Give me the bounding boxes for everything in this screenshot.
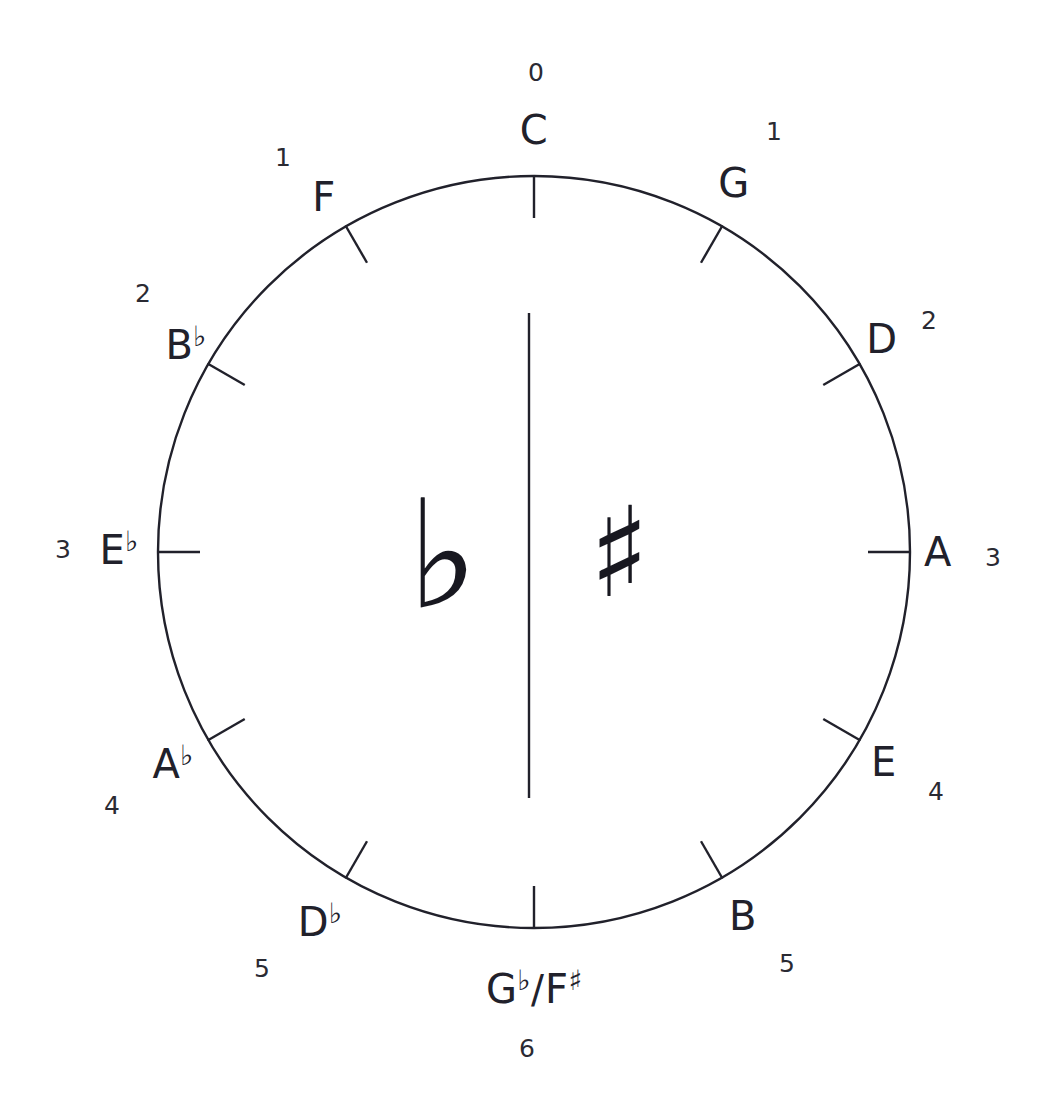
key-label-e: E [871, 742, 897, 782]
tick-mark-f [346, 226, 368, 263]
key-label-bb: B♭ [165, 323, 206, 365]
key-label-d: D [866, 319, 897, 359]
key-label-f: F [312, 177, 336, 217]
accidental-count-gb-f#: 6 [519, 1036, 535, 1061]
key-root-letter: E [100, 527, 126, 573]
accidental-count-eb: 3 [55, 537, 71, 562]
enharmonic-root-letter: F [545, 966, 569, 1012]
tick-mark-ab [208, 719, 245, 741]
key-label-ab: A♭ [152, 742, 193, 784]
key-root-letter: F [312, 174, 336, 220]
circle-outline [158, 176, 910, 928]
key-label-gb-f#: G♭/F♯ [486, 967, 582, 1010]
key-label-eb: E♭ [100, 528, 139, 570]
accidental-count-b: 5 [779, 951, 795, 976]
key-root-letter: D [866, 316, 897, 362]
sharp-accidental-icon: ♯ [568, 964, 582, 997]
diagram-canvas [0, 0, 1055, 1112]
sharp-symbol-icon: ♯ [589, 490, 650, 615]
key-root-letter: D [298, 899, 329, 945]
key-root-letter: B [729, 893, 757, 939]
key-root-letter: E [871, 739, 897, 785]
accidental-count-d: 2 [921, 308, 937, 333]
accidental-count-db: 5 [254, 956, 270, 981]
key-root-letter: G [718, 160, 750, 206]
accidental-count-c: 0 [528, 60, 544, 85]
tick-mark-bb [208, 364, 245, 386]
accidental-count-a: 3 [985, 545, 1001, 570]
circle-of-fifths-diagram: C0G1D2A3E4B5G♭/F♯6D♭5A♭4E♭3B♭2F1 ♭ ♯ [0, 0, 1055, 1112]
key-root-letter: B [165, 322, 193, 368]
enharmonic-separator: / [531, 967, 545, 1012]
tick-mark-d [823, 364, 860, 386]
tick-mark-b [701, 841, 723, 878]
flat-accidental-icon: ♭ [193, 320, 206, 353]
key-root-letter: A [152, 741, 180, 787]
key-label-c: C [520, 110, 548, 150]
key-label-a: A [924, 532, 952, 572]
accidental-count-bb: 2 [135, 281, 151, 306]
tick-mark-e [823, 719, 860, 741]
key-label-db: D♭ [298, 900, 343, 942]
tick-mark-db [346, 841, 368, 878]
accidental-count-f: 1 [275, 145, 291, 170]
accidental-count-e: 4 [928, 779, 944, 804]
key-root-letter: A [924, 529, 952, 575]
key-label-b: B [729, 896, 757, 936]
flat-accidental-icon: ♭ [329, 897, 342, 930]
flat-symbol-icon: ♭ [408, 480, 479, 630]
key-label-g: G [718, 163, 750, 203]
accidental-count-g: 1 [766, 119, 782, 144]
flat-accidental-icon: ♭ [180, 739, 193, 772]
circle-outline-group [158, 176, 910, 928]
flat-accidental-icon: ♭ [125, 525, 138, 558]
key-root-letter: C [520, 107, 548, 153]
key-root-letter: G [486, 966, 518, 1012]
tick-mark-g [701, 226, 723, 263]
tick-mark-group [157, 175, 911, 929]
accidental-count-ab: 4 [104, 793, 120, 818]
flat-accidental-icon: ♭ [518, 964, 531, 997]
